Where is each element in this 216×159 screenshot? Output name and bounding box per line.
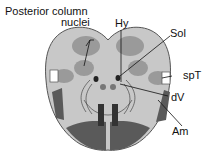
solitary-right — [116, 75, 121, 81]
medulla-outline — [46, 27, 171, 150]
spt-tract-left — [50, 70, 58, 82]
midline-dark-right — [112, 104, 118, 126]
label-dv: dV — [171, 92, 184, 103]
label-hy: Hy — [115, 18, 128, 29]
medulla-diagram: Posterior column nuclei Hy Sol spT dV Am — [0, 0, 216, 159]
midline-dark-left — [98, 104, 104, 126]
label-nuclei: nuclei — [61, 17, 90, 28]
hypoglossal-right — [110, 84, 116, 90]
cuneate-nucleus-right — [128, 60, 148, 76]
label-am: Am — [172, 126, 189, 137]
solitary-left — [94, 76, 99, 82]
hypoglossal-left — [100, 84, 106, 90]
gracile-nucleus-right — [116, 36, 144, 56]
label-spt: spT — [183, 70, 201, 81]
cuneate-nucleus-left — [74, 60, 94, 76]
label-sol: Sol — [170, 28, 186, 39]
